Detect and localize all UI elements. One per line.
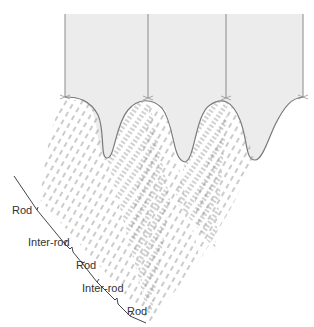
label-rod-2: Rod [76, 259, 96, 271]
label-rod-1: Rod [12, 204, 32, 216]
label-interrod-2: Inter-rod [82, 282, 124, 294]
enamel-layer [40, 97, 255, 322]
label-rod-3: Rod [127, 305, 147, 317]
enamel-rod-diagram: Rod Inter-rod Rod Inter-rod Rod [0, 0, 314, 327]
label-interrod-1: Inter-rod [28, 236, 70, 248]
